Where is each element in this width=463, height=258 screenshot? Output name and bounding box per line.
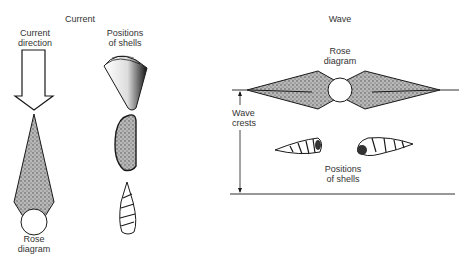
wave-crest-spacing-arrow bbox=[238, 91, 242, 193]
current-rose-diagram bbox=[14, 114, 54, 235]
current-panel-title: Current bbox=[60, 14, 100, 24]
wave-rose-label-line2: diagram bbox=[316, 56, 364, 66]
wave-rose-label-line1: Rose bbox=[316, 46, 364, 56]
diagram-canvas bbox=[0, 0, 463, 258]
current-direction-label-line2: direction bbox=[10, 38, 60, 48]
current-direction-label-line1: Current bbox=[10, 28, 60, 38]
current-rose-label-line2: diagram bbox=[10, 244, 58, 254]
wave-rose-diagram bbox=[247, 71, 440, 109]
current-direction-label: Current direction bbox=[10, 28, 60, 48]
wave-crests-label: Wave crests bbox=[232, 108, 262, 128]
current-positions-label-line1: Positions bbox=[100, 28, 150, 38]
wave-crests-label-line2: crests bbox=[232, 118, 262, 128]
wave-crests-label-line1: Wave bbox=[232, 108, 262, 118]
wave-rose-label: Rose diagram bbox=[316, 46, 364, 66]
turret-shell-right bbox=[357, 138, 413, 156]
current-positions-label-line2: of shells bbox=[100, 38, 150, 48]
current-direction-arrow bbox=[15, 50, 53, 110]
turret-shell bbox=[120, 182, 136, 234]
cone-shell bbox=[104, 56, 147, 110]
wave-positions-label-line2: of shells bbox=[318, 174, 368, 184]
current-rose-label: Rose diagram bbox=[10, 234, 58, 254]
turret-shell-left bbox=[275, 138, 322, 154]
wave-panel-title: Wave bbox=[320, 14, 360, 24]
bivalve-shell bbox=[115, 115, 136, 171]
current-positions-label: Positions of shells bbox=[100, 28, 150, 48]
wave-positions-label-line1: Positions bbox=[318, 164, 368, 174]
wave-positions-label: Positions of shells bbox=[318, 164, 368, 184]
current-rose-label-line1: Rose bbox=[10, 234, 58, 244]
